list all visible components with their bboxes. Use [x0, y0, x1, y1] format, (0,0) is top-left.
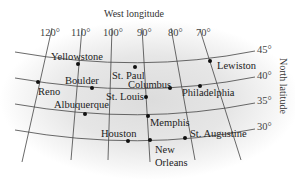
latitude-label: 40°	[257, 70, 272, 81]
longitude-label: 80°	[168, 27, 183, 38]
city-marker: St. Louis	[106, 91, 148, 102]
parallel-35	[15, 103, 255, 115]
latitude-labels: 45°40°35°30°	[257, 44, 272, 132]
city-dot-icon	[133, 65, 137, 69]
city-label: Lewiston	[217, 60, 257, 71]
city-marker: Albuquerque	[54, 99, 109, 116]
longitude-labels: 120°110°100°90°80°70°	[40, 27, 211, 38]
longitude-label: 110°	[71, 27, 91, 38]
city-marker: Lewiston	[208, 59, 257, 71]
city-dot-icon	[183, 136, 187, 140]
city-label: St. Augustine	[190, 128, 247, 139]
city-marker: NewOrleans	[148, 138, 188, 168]
city-label: Memphis	[150, 117, 190, 128]
west-longitude-label: West longitude	[104, 8, 165, 19]
map-container: West longitude North latitude 120°110°10…	[0, 0, 295, 180]
north-latitude-label: North latitude	[278, 58, 289, 114]
city-label: Orleans	[155, 157, 188, 168]
city-dot-icon	[90, 86, 94, 90]
city-marker: Yellowstone	[51, 51, 103, 66]
city-label: Reno	[38, 86, 60, 97]
city-label: Yellowstone	[51, 51, 103, 62]
city-label: Albuquerque	[54, 99, 109, 110]
city-dot-icon	[208, 59, 212, 63]
city-label: Columbus	[128, 79, 171, 90]
city-label: St. Louis	[106, 91, 144, 102]
map-svg: West longitude North latitude 120°110°10…	[0, 0, 295, 180]
city-dot-icon	[76, 62, 80, 66]
longitude-label: 120°	[40, 27, 60, 38]
meridian-110	[71, 28, 82, 160]
cities: YellowstoneSt. PaulLewistonRenoBoulderCo…	[36, 51, 257, 168]
city-marker: Philadelphia	[182, 84, 235, 98]
latitude-label: 45°	[257, 44, 272, 55]
latitude-label: 30°	[257, 121, 272, 132]
city-label: Boulder	[65, 75, 99, 86]
city-dot-icon	[36, 80, 40, 84]
longitude-label: 100°	[103, 27, 123, 38]
latitude-label: 35°	[257, 95, 272, 106]
city-dot-icon	[83, 112, 87, 116]
city-dot-icon	[126, 139, 130, 143]
longitude-label: 70°	[196, 27, 211, 38]
city-dot-icon	[148, 138, 152, 142]
city-label: Houston	[101, 128, 137, 139]
city-marker: Columbus	[128, 79, 172, 90]
city-label: Philadelphia	[182, 87, 235, 98]
city-marker: St. Augustine	[183, 128, 247, 140]
city-dot-icon	[144, 95, 148, 99]
longitude-label: 90°	[137, 27, 152, 38]
city-marker: Memphis	[146, 114, 190, 128]
city-marker: Reno	[36, 80, 60, 97]
city-label: New	[155, 144, 175, 155]
